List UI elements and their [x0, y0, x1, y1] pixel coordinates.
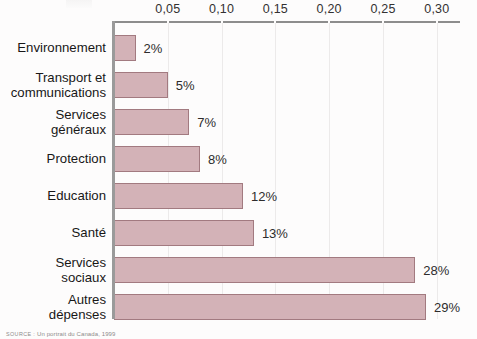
axis-tick-0-10 — [221, 21, 223, 23]
bar-value-label: 13% — [262, 226, 288, 241]
x-tick-label: 0,20 — [317, 2, 342, 16]
source-keyword: SOURCE : — [6, 331, 35, 337]
axis-tick-0-30 — [436, 21, 438, 23]
category-label: Autresdépenses — [0, 294, 106, 320]
bar — [114, 183, 243, 209]
source-text: Un portrait du Canada, 1999 — [35, 331, 115, 337]
plot-area: 2%5%7%8%12%13%28%29% — [114, 23, 459, 319]
axis-tick-0-05 — [167, 21, 169, 23]
bar-row: 29% — [114, 294, 459, 320]
x-tick-label: 0,10 — [209, 2, 234, 16]
y-axis-line — [112, 21, 115, 319]
bar-row: 28% — [114, 257, 459, 283]
bar-row: 7% — [114, 109, 459, 135]
axis-tick-0-15 — [274, 21, 276, 23]
bar-row: 13% — [114, 220, 459, 246]
x-tick-label: 0,30 — [424, 2, 449, 16]
category-label: Education — [0, 183, 106, 209]
bar-value-label: 12% — [251, 189, 277, 204]
axis-tick-0-25 — [382, 21, 384, 23]
category-label: Environnement — [0, 35, 106, 61]
category-label: Protection — [0, 146, 106, 172]
bar — [114, 109, 189, 135]
bar-value-label: 8% — [208, 152, 227, 167]
bar-value-label: 7% — [197, 115, 216, 130]
x-tick-label: 0,25 — [370, 2, 395, 16]
bar-row: 8% — [114, 146, 459, 172]
axis-tick-0-20 — [328, 21, 330, 23]
bar-value-label: 28% — [423, 263, 449, 278]
bar-value-label: 5% — [176, 78, 195, 93]
bar — [114, 146, 200, 172]
bar-value-label: 2% — [144, 41, 163, 56]
bar-value-label: 29% — [434, 300, 460, 315]
bar — [114, 35, 136, 61]
category-label: Transport etcommunications — [0, 72, 106, 98]
bar — [114, 294, 426, 320]
bar-row: 5% — [114, 72, 459, 98]
x-tick-label: 0,15 — [263, 2, 288, 16]
bar — [114, 220, 254, 246]
bar-row: 12% — [114, 183, 459, 209]
category-label: Servicessociaux — [0, 257, 106, 283]
source-note: SOURCE : Un portrait du Canada, 1999 — [6, 331, 115, 337]
bar — [114, 72, 168, 98]
bar-chart: 2%5%7%8%12%13%28%29% 0,050,100,150,200,2… — [0, 0, 477, 339]
x-axis-line — [113, 21, 460, 23]
category-label: Servicesgénéraux — [0, 109, 106, 135]
bar — [114, 257, 415, 283]
cropped-title-remnant — [66, 0, 92, 8]
bar-row: 2% — [114, 35, 459, 61]
x-tick-label: 0,05 — [155, 2, 180, 16]
category-label: Santé — [0, 220, 106, 246]
